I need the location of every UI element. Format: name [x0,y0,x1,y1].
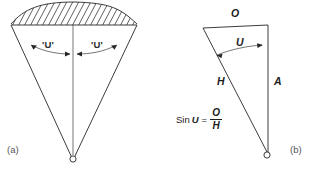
side-label-adjacent: A [274,76,282,87]
angle-label-u: U [236,37,244,48]
formula-function: Sin [176,114,190,125]
panel-a-geometry [0,0,162,162]
side-hypotenuse [203,28,267,152]
cone-apex-vertex [70,156,76,162]
angle-arrowhead-u-right [257,43,263,48]
side-label-opposite: O [231,8,239,19]
side-label-hypotenuse: H [217,76,225,87]
cone-side-right [74,25,137,158]
panel-caption-a: (a) [7,145,19,155]
side-opposite [203,25,268,28]
trigonometry-figure: 'U' 'U' (a) O U H A Sin U = O H (b) [0,0,318,173]
formula-equals: = [202,114,208,125]
hatched-cap-fill [0,0,162,30]
cap-arc [11,2,137,24]
formula-variable: U [192,114,199,125]
figure-vector-canvas [0,0,318,173]
triangle-vertex [264,152,270,158]
panel-caption-b: (b) [290,145,302,155]
angle-arrowhead-left-inner [65,52,71,57]
angle-arrowhead-right-inner [77,52,83,57]
formula-denominator: H [210,120,221,131]
formula-fraction: O H [210,108,222,131]
sine-formula: Sin U = O H [176,108,222,131]
angle-label-right: 'U' [91,40,103,50]
angle-label-left: 'U' [42,40,54,50]
formula-numerator: O [210,108,222,119]
